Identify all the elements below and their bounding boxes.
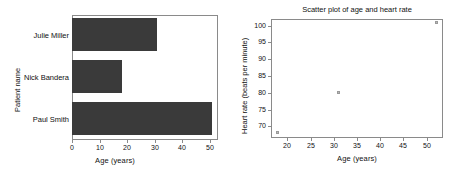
bar-x-tick-1 xyxy=(100,140,101,143)
scatter-y-tick-80 xyxy=(268,93,271,94)
scatter-y-axis-title: Heart rate (beats per minute) xyxy=(240,38,249,134)
bar-x-tick-2 xyxy=(127,140,128,143)
bar-y-axis-title: Patient name xyxy=(13,68,22,112)
bar-category-label-1: Nick Bandera xyxy=(0,73,69,82)
bar-x-tick-3 xyxy=(155,140,156,143)
bar-category-label-2: Paul Smith xyxy=(0,115,69,124)
bar-x-tick-4 xyxy=(182,140,183,143)
scatter-y-tick-label-1: 75 xyxy=(248,106,266,113)
scatter-chart-title: Scatter plot of age and heart rate xyxy=(302,5,412,14)
scatter-x-tick-label-1: 25 xyxy=(305,142,317,149)
scatter-x-tick-label-3: 35 xyxy=(351,142,363,149)
bar-nick-bandera xyxy=(72,60,122,93)
scatter-y-tick-70 xyxy=(268,126,271,127)
bar-category-label-0: Julie Miller xyxy=(0,31,69,40)
bar-x-tick-label-3: 30 xyxy=(149,144,161,151)
scatter-y-tick-label-2: 80 xyxy=(248,89,266,96)
bar-x-axis-title: Age (years) xyxy=(95,156,135,165)
scatter-y-tick-label-4: 90 xyxy=(248,55,266,62)
scatter-y-tick-90 xyxy=(268,59,271,60)
scatter-y-tick-label-6: 100 xyxy=(248,22,266,29)
scatter-x-tick-label-5: 45 xyxy=(397,142,409,149)
scatter-x-tick-label-4: 40 xyxy=(374,142,386,149)
bar-x-tick-label-1: 10 xyxy=(94,144,106,151)
bar-x-tick-label-5: 50 xyxy=(204,144,216,151)
scatter-y-tick-95 xyxy=(268,42,271,43)
scatter-y-tick-100 xyxy=(268,26,271,27)
scatter-y-tick-label-3: 85 xyxy=(248,72,266,79)
bar-x-tick-5 xyxy=(210,140,211,143)
scatter-x-tick-label-2: 30 xyxy=(328,142,340,149)
scatter-chart-panel: Scatter plot of age and heart rate 100 9… xyxy=(226,0,452,178)
scatter-x-tick-50 xyxy=(427,138,428,141)
bar-x-tick-label-0: 0 xyxy=(66,144,78,151)
scatter-point-2 xyxy=(435,21,438,24)
bar-chart-panel: Julie Miller Nick Bandera Paul Smith Pat… xyxy=(0,0,226,178)
scatter-x-tick-20 xyxy=(287,138,288,141)
scatter-x-tick-label-0: 20 xyxy=(281,142,293,149)
scatter-plot-area xyxy=(271,19,443,138)
scatter-x-tick-45 xyxy=(403,138,404,141)
bar-paul-smith xyxy=(72,102,212,135)
bar-x-tick-label-2: 20 xyxy=(121,144,133,151)
scatter-y-tick-label-5: 95 xyxy=(248,38,266,45)
figure-canvas: Julie Miller Nick Bandera Paul Smith Pat… xyxy=(0,0,452,178)
scatter-x-tick-label-6: 50 xyxy=(421,142,433,149)
scatter-y-tick-75 xyxy=(268,110,271,111)
scatter-x-tick-35 xyxy=(357,138,358,141)
scatter-x-tick-25 xyxy=(311,138,312,141)
scatter-x-axis-title: Age (years) xyxy=(337,154,377,163)
scatter-point-0 xyxy=(276,131,279,134)
scatter-y-tick-label-0: 70 xyxy=(248,122,266,129)
bar-julie-miller xyxy=(72,18,157,51)
scatter-x-tick-30 xyxy=(334,138,335,141)
scatter-x-tick-40 xyxy=(380,138,381,141)
scatter-point-1 xyxy=(337,91,340,94)
bar-x-tick-label-4: 40 xyxy=(176,144,188,151)
bar-x-tick-0 xyxy=(72,140,73,143)
scatter-y-tick-85 xyxy=(268,76,271,77)
